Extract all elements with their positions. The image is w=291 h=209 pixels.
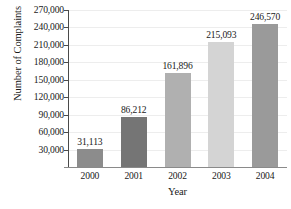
y-axis-tick-label: 150,000 <box>22 75 64 85</box>
bar-value-label: 86,212 <box>121 105 146 115</box>
y-axis-tick-label: 270,000 <box>22 5 64 15</box>
x-axis-tick-label: 2001 <box>124 170 143 181</box>
bar-group: 31,113 <box>77 10 103 167</box>
bar-group: 161,896 <box>165 10 191 167</box>
bar <box>165 73 191 167</box>
x-axis-tick-label: 2004 <box>256 170 275 181</box>
x-axis-tick-label: 2000 <box>81 170 100 181</box>
bar-group: 246,570 <box>252 10 278 167</box>
x-axis-tick-label-group: 20002001200220032004 <box>68 170 287 184</box>
y-axis-tick-label: 120,000 <box>22 92 64 102</box>
y-axis-tick-label-group: 30,00060,00090,000120,000150,000180,0002… <box>22 0 64 209</box>
y-axis-tick-label: 180,000 <box>22 58 64 68</box>
x-axis-line <box>64 167 287 168</box>
plot-area: 31,11386,212161,896215,093246,570 <box>68 10 287 167</box>
bar-group: 215,093 <box>208 10 234 167</box>
y-axis-tick-label: 240,000 <box>22 23 64 33</box>
y-axis-tick-label: 30,000 <box>22 145 64 155</box>
bar-value-label: 246,570 <box>250 12 280 22</box>
y-axis-tick-label: 60,000 <box>22 127 64 137</box>
bar <box>77 149 103 167</box>
bar <box>208 42 234 167</box>
bar-value-label: 161,896 <box>162 61 192 71</box>
x-axis-title: Year <box>68 186 287 197</box>
x-axis-tick-label: 2002 <box>168 170 187 181</box>
bar-group: 86,212 <box>121 10 147 167</box>
bar-value-label: 31,113 <box>77 137 102 147</box>
y-axis-tick-label: 90,000 <box>22 110 64 120</box>
y-axis-tick-label: 210,000 <box>22 40 64 50</box>
bar <box>121 117 147 167</box>
bar-value-label: 215,093 <box>206 30 236 40</box>
bar <box>252 24 278 167</box>
x-axis-tick-label: 2003 <box>212 170 231 181</box>
bar-series-group: 31,11386,212161,896215,093246,570 <box>68 10 287 167</box>
y-axis-title: Number of Complaints <box>12 0 23 119</box>
bar-chart-figure: Number of Complaints 30,00060,00090,0001… <box>0 0 291 209</box>
